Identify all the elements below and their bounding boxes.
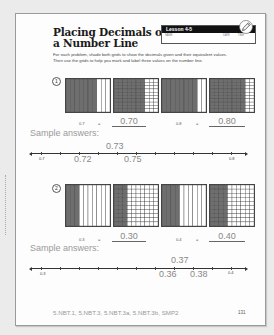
equals-sign: = xyxy=(98,121,100,126)
tenths-grid[interactable] xyxy=(65,78,111,113)
number-line-label-below: 0.36 xyxy=(159,269,177,279)
number-line-label-above: 0.37 xyxy=(171,255,189,265)
standards-footer: 5.NBT.1, 5.NBT.3, 5.NBT.3a, 5.NBT.3b, SM… xyxy=(53,309,179,316)
given-decimal: 0.4 xyxy=(176,237,182,242)
number-line-tick xyxy=(41,152,42,155)
pencil-icon xyxy=(239,20,253,34)
number-line-tick xyxy=(231,152,232,155)
number-line-tick xyxy=(136,152,137,155)
hundredths-grid[interactable] xyxy=(209,184,255,227)
equals-sign: = xyxy=(196,237,198,242)
number-line-tick xyxy=(79,267,80,270)
hundredths-grid[interactable] xyxy=(113,184,159,227)
number-line-end: 0.8 xyxy=(229,156,235,161)
page-number: 131 xyxy=(238,310,246,315)
number-line-tick xyxy=(212,152,213,155)
number-line[interactable] xyxy=(31,268,245,269)
time-field-label: TIME xyxy=(238,34,244,37)
arrow-right-icon xyxy=(245,267,248,271)
number-line-label-below: 0.38 xyxy=(190,269,208,279)
sample-answers-label: Sample answers: xyxy=(30,243,99,253)
number-line-tick xyxy=(174,152,175,155)
instructions: For each problem, shade both grids to sh… xyxy=(53,52,263,64)
given-decimal: 0.7 xyxy=(79,121,85,126)
equals-sign: = xyxy=(98,237,100,242)
number-line-tick xyxy=(98,267,99,270)
number-line-tick xyxy=(79,152,80,155)
problem-number-1: 1 xyxy=(52,77,61,86)
number-line-end: 0.4 xyxy=(228,270,234,275)
tenths-grid[interactable] xyxy=(65,184,111,227)
answer-field[interactable]: 0.70 xyxy=(112,116,146,127)
lesson-header-box: Lesson 4-5 NAME DATE TIME xyxy=(161,25,256,44)
number-line-tick xyxy=(98,152,99,155)
instructions-line-2: Then use the grids to help you mark and … xyxy=(53,58,263,64)
answer-field[interactable]: 0.80 xyxy=(209,116,245,127)
number-line-start: 0.3 xyxy=(40,271,46,276)
given-decimal: 0.3 xyxy=(79,237,85,242)
title-line-2: a Number Line xyxy=(53,38,169,49)
number-line-tick xyxy=(117,267,118,270)
copyright-margin-text xyxy=(5,175,8,235)
hundredths-grid[interactable] xyxy=(113,78,159,113)
name-field-label: NAME xyxy=(165,34,215,37)
answer-field[interactable]: 0.40 xyxy=(209,231,245,242)
number-line-label-below: 0.75 xyxy=(124,154,142,164)
tenths-grid[interactable] xyxy=(161,184,207,227)
number-line-tick xyxy=(155,152,156,155)
worksheet-page: Placing Decimals on a Number Line Lesson… xyxy=(15,13,266,326)
problem-number-2: 2 xyxy=(52,184,61,193)
number-line-tick xyxy=(136,267,137,270)
number-line-start: 0.7 xyxy=(39,156,45,161)
equals-sign: = xyxy=(196,121,198,126)
number-line-tick xyxy=(41,267,42,270)
number-line-tick xyxy=(212,267,213,270)
arrow-right-icon xyxy=(245,152,248,156)
given-decimal: 0.8 xyxy=(176,121,182,126)
hundredths-grid[interactable] xyxy=(209,78,255,113)
number-line-tick xyxy=(155,267,156,270)
number-line-label-below: 0.72 xyxy=(74,154,92,164)
number-line-tick xyxy=(231,267,232,270)
number-line-tick xyxy=(117,152,118,155)
number-line-tick xyxy=(174,267,175,270)
number-line-tick xyxy=(60,152,61,155)
answer-field[interactable]: 0.30 xyxy=(112,231,146,242)
number-line-tick xyxy=(193,152,194,155)
number-line-tick xyxy=(60,267,61,270)
number-line-tick xyxy=(193,267,194,270)
page-title: Placing Decimals on a Number Line xyxy=(53,27,169,49)
number-line-label-above: 0.73 xyxy=(106,141,124,151)
date-field-label: DATE xyxy=(223,34,230,37)
sample-answers-label: Sample answers: xyxy=(30,128,99,138)
tenths-grid[interactable] xyxy=(161,78,207,113)
